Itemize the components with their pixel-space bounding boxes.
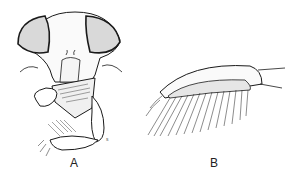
panel-label-b: B xyxy=(210,156,218,170)
illustration-figure: A B s xyxy=(0,0,300,179)
panel-label-a: A xyxy=(70,156,78,170)
small-mark: s xyxy=(106,136,109,142)
panel-b-appendage-drawing xyxy=(146,66,285,136)
figure-drawing xyxy=(0,0,300,179)
panel-a-head-drawing xyxy=(18,12,122,156)
